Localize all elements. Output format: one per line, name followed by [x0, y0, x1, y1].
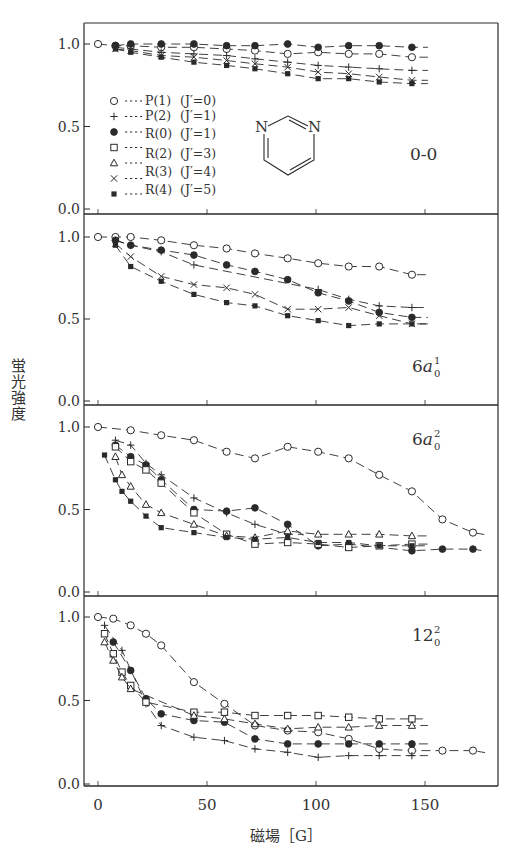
legend-jprime: (J′=1) — [180, 108, 216, 123]
filled-square-marker — [316, 318, 321, 323]
open-circle-marker — [251, 455, 258, 462]
filled-square-marker — [159, 525, 164, 530]
filled-circle-marker — [252, 504, 259, 511]
filled-square-marker — [409, 321, 414, 326]
filled-square-marker — [409, 543, 414, 548]
legend-jprime: (J′=4) — [180, 164, 216, 179]
panel-label-sup: 1 — [434, 355, 440, 366]
y-tick-label: 1.0 — [58, 229, 80, 245]
filled-square-marker — [316, 76, 321, 81]
filled-square-marker — [285, 313, 290, 318]
panel-label: 6a — [412, 429, 433, 449]
filled-square-marker — [346, 323, 351, 328]
filled-circle-marker — [315, 741, 322, 748]
filled-square-marker — [224, 535, 229, 540]
filled-circle-marker — [158, 41, 165, 48]
open-circle-marker — [345, 263, 352, 270]
filled-circle-marker — [191, 252, 198, 259]
x-tick-label: 150 — [411, 796, 440, 814]
panel-label-sup: 2 — [434, 624, 440, 635]
plus-marker — [158, 722, 165, 729]
filled-circle-marker — [315, 44, 322, 51]
legend-jprime: (J′=0) — [180, 93, 216, 108]
series-line — [115, 440, 303, 534]
filled-square-marker — [224, 300, 229, 305]
filled-square-marker — [409, 81, 414, 86]
legend-jprime: (J′=1) — [180, 126, 216, 141]
open-circle-marker — [345, 455, 352, 462]
open-circle-marker — [94, 613, 101, 620]
filled-square-marker — [113, 243, 118, 248]
filled-circle-marker — [223, 42, 230, 49]
open-square-legend-marker — [111, 144, 117, 150]
pyrimidine-structure-icon: NN — [255, 116, 321, 175]
plus-marker — [190, 734, 197, 741]
series-markers — [110, 639, 415, 748]
open-square-marker — [315, 712, 321, 718]
open-triangle-marker — [345, 530, 352, 537]
plus-legend-marker — [110, 113, 117, 120]
legend-label: R(4) — [145, 182, 172, 197]
open-square-marker — [143, 467, 149, 473]
y-tick-label: 0.0 — [58, 584, 80, 600]
open-square-marker — [252, 712, 258, 718]
filled-square-marker — [191, 60, 196, 65]
open-triangle-marker — [118, 471, 125, 478]
open-triangle-marker — [112, 453, 119, 460]
filled-circle-marker — [223, 261, 230, 268]
filled-square-marker — [285, 535, 290, 540]
open-triangle-marker — [221, 715, 228, 722]
legend-jprime: (J′=5) — [180, 182, 216, 197]
open-triangle-marker — [158, 509, 165, 516]
series-markers — [112, 437, 292, 538]
cross-marker — [158, 273, 164, 279]
open-square-marker — [143, 699, 149, 705]
filled-circle-marker — [191, 41, 198, 48]
legend-item — [111, 144, 142, 150]
open-triangle-marker — [315, 530, 322, 537]
open-square-marker — [252, 541, 258, 547]
panel-label: 6a — [412, 356, 433, 376]
panel-label: 12 — [412, 625, 434, 645]
open-circle-marker — [158, 642, 165, 649]
open-circle-marker — [284, 255, 291, 262]
plus-marker — [408, 304, 415, 311]
plus-marker — [190, 50, 197, 57]
legend-item — [110, 113, 142, 120]
open-circle-marker — [158, 432, 165, 439]
series-markers — [113, 243, 415, 329]
series-line — [115, 445, 485, 551]
filled-circle-marker — [409, 314, 416, 321]
legend-item — [111, 191, 142, 196]
panel-label-sub: 0 — [434, 637, 440, 648]
open-circle-marker — [439, 747, 446, 754]
x-axis-label: 磁場［G］ — [250, 824, 322, 845]
open-circle-marker — [127, 233, 134, 240]
open-circle-marker — [127, 427, 134, 434]
filled-circle-marker — [439, 546, 446, 553]
cross-legend-marker — [111, 175, 117, 181]
filled-square-marker — [252, 303, 257, 308]
legend-label: P(1) — [145, 93, 171, 108]
legend-label: P(2) — [145, 108, 171, 123]
panel-label-sub: 0 — [434, 441, 440, 452]
x-tick-label: 50 — [197, 796, 216, 814]
open-circle-marker — [221, 700, 228, 707]
svg-text:N: N — [255, 118, 268, 136]
open-square-marker — [101, 631, 107, 637]
filled-square-marker — [224, 63, 229, 68]
panel-label-sub: 0 — [434, 368, 440, 379]
y-tick-label: 1.0 — [58, 419, 80, 435]
open-square-marker — [158, 480, 164, 486]
filled-circle-marker — [284, 276, 291, 283]
open-circle-marker — [408, 488, 415, 495]
series-markers — [112, 240, 415, 327]
open-triangle-legend-marker — [110, 159, 117, 166]
filled-circle-marker — [315, 289, 322, 296]
y-tick-label: 0.0 — [58, 776, 80, 792]
open-circle-marker — [223, 245, 230, 252]
filled-circle-marker — [345, 298, 352, 305]
open-square-marker — [128, 458, 134, 464]
plus-marker — [314, 62, 321, 69]
x-tick-label: 0 — [93, 796, 103, 814]
